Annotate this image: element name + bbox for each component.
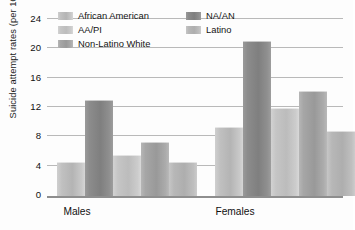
bar-females-non-latino-white: [299, 91, 327, 196]
bar-females-latino: [327, 131, 355, 197]
x-group-label-males: Males: [17, 206, 137, 217]
y-tick-label-8: 8: [15, 131, 41, 141]
gridline-16: [47, 77, 343, 78]
legend-item-aa-pi: AA/PI: [58, 24, 102, 36]
bar-females-aa-pi: [271, 108, 299, 196]
y-tick-label-24: 24: [15, 14, 41, 24]
bar-males-non-latino-white: [141, 142, 169, 196]
legend-item-na-an: NA/AN: [186, 10, 235, 22]
legend-label-aa-pi: AA/PI: [78, 25, 102, 35]
bar-males-african-american: [57, 162, 85, 196]
legend-swatch-african-american: [58, 12, 73, 20]
legend-item-african-american: African American: [58, 10, 149, 22]
legend-label-non-latino-white: Non-Latino White: [78, 39, 150, 49]
bar-males-aa-pi: [113, 155, 141, 196]
legend-item-non-latino-white: Non-Latino White: [58, 38, 150, 50]
y-tick-label-0: 0: [15, 190, 41, 200]
legend-swatch-aa-pi: [58, 26, 73, 34]
legend-label-african-american: African American: [78, 11, 149, 21]
bar-males-latino: [169, 162, 197, 196]
y-tick-label-4: 4: [15, 161, 41, 171]
bar-females-african-american: [215, 127, 243, 196]
bar-females-na-an: [243, 41, 271, 196]
y-tick-label-20: 20: [15, 43, 41, 53]
legend-label-latino: Latino: [206, 25, 232, 35]
legend-swatch-non-latino-white: [58, 40, 73, 48]
legend-swatch-na-an: [186, 12, 201, 20]
x-group-label-females: Females: [175, 206, 295, 217]
legend-label-na-an: NA/AN: [206, 11, 235, 21]
legend-swatch-latino: [186, 26, 201, 34]
bar-males-na-an: [85, 100, 113, 196]
y-tick-label-12: 12: [15, 102, 41, 112]
legend-item-latino: Latino: [186, 24, 232, 36]
chart-legend: African American AA/PI Non-Latino White …: [58, 10, 288, 52]
x-axis-line: [47, 196, 343, 198]
y-tick-label-16: 16: [15, 73, 41, 83]
